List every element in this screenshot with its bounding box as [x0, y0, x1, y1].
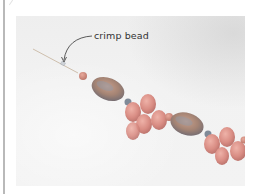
callout-arrow-icon [0, 0, 260, 194]
